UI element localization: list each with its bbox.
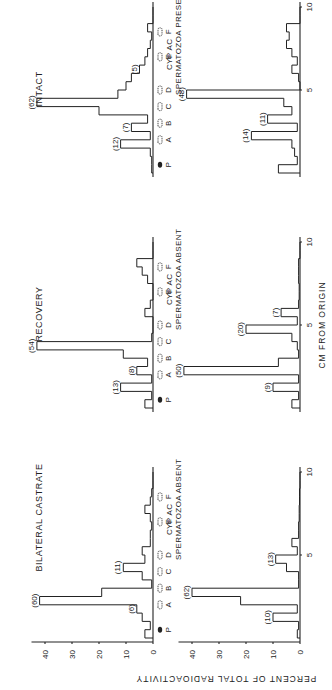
histograms-layer: (6)(60)(11)PABCDEF(10)(62)(13)510(13)(8)… — [27, 2, 314, 642]
figure-canvas: 010203040010203040 (6)(60)(11)PABCDEF(10… — [0, 0, 332, 690]
standard-spot-icon — [158, 338, 162, 346]
y-tick-label: 10 — [122, 649, 131, 658]
standard-spot-icon — [158, 86, 162, 94]
peak-label: (13) — [111, 380, 120, 395]
y-tick-label: 10 — [269, 649, 278, 658]
spot-label: P — [164, 162, 173, 167]
standard-spot-icon — [158, 119, 162, 127]
y-tick-label: 20 — [242, 649, 251, 658]
standard-spot-icon — [158, 53, 162, 61]
panel-note-line2: SPERMATOZOA ABSENT — [174, 229, 183, 330]
panel-note-line1: CYP AC — [165, 38, 174, 70]
standard-spot-icon — [158, 136, 162, 144]
x-tick-label: 5 — [305, 322, 314, 327]
spot-label: A — [164, 371, 173, 377]
x-tick-label: 10 — [305, 2, 314, 11]
spot-label: C — [164, 568, 173, 574]
castrate-top-histogram: (6)(60)(11)PABCDEF — [30, 467, 173, 642]
peak-label: (50) — [174, 363, 183, 378]
y-tick-label: 0 — [149, 649, 158, 654]
peak-label: (11) — [113, 560, 122, 574]
axes-layer: 010203040010203040 — [32, 642, 306, 659]
spot-label: P — [164, 627, 173, 632]
standard-spot-icon — [158, 28, 162, 36]
y-tick-label: 30 — [68, 649, 77, 658]
intact-bottom-histogram: (14)(11)(48)510 — [177, 2, 314, 177]
histogram-steps — [37, 242, 153, 408]
recovery-top-histogram: (13)(8)(54)PABCDEF — [27, 237, 173, 412]
peak-label: (13) — [266, 552, 275, 567]
origin-spot-icon — [158, 397, 162, 403]
x-tick-label: 10 — [305, 467, 314, 476]
peak-label: (14) — [241, 128, 250, 143]
panel-note-line2: SPERMATOZOA PRESENT — [174, 0, 183, 95]
spot-label: F — [164, 29, 173, 34]
panel-title: RECOVERY — [34, 286, 44, 341]
spot-label: P — [164, 397, 173, 402]
panel-note-line2: SPERMATOZOA ABSENT — [174, 459, 183, 560]
standard-spot-icon — [158, 354, 162, 362]
spot-label: F — [164, 264, 173, 269]
castrate-bottom-histogram: (10)(62)(13)510 — [182, 467, 314, 642]
spot-label: D — [164, 87, 173, 93]
standard-spot-icon — [158, 551, 162, 559]
y-tick-label: 40 — [41, 649, 50, 658]
standard-spot-icon — [158, 518, 162, 526]
intact-top-histogram: (12)(7)(62)(5)PABCDEF — [27, 2, 173, 177]
standard-spot-icon — [158, 568, 162, 576]
standard-spot-icon — [158, 584, 162, 592]
panel-note-line1: CYP AC — [165, 503, 174, 535]
origin-spot-icon — [158, 162, 162, 168]
x-tick-label: 10 — [305, 237, 314, 246]
y-tick-label: 40 — [188, 649, 197, 658]
histogram-steps — [40, 472, 153, 638]
peak-label: (12) — [111, 137, 120, 152]
spot-label: D — [164, 322, 173, 328]
panel-title: BILATERAL CASTRATE — [34, 463, 44, 571]
peak-label: (10) — [263, 610, 272, 625]
peak-label: (7) — [271, 307, 280, 317]
peak-label: (7) — [121, 122, 130, 132]
x-tick-label: 5 — [305, 552, 314, 557]
x-tick-label: 5 — [305, 87, 314, 92]
panel-note-line1: CYP AC — [165, 273, 174, 305]
standard-spot-icon — [158, 601, 162, 609]
peak-label: (5) — [130, 64, 139, 74]
spot-label: B — [164, 356, 173, 361]
histogram-steps — [37, 7, 153, 173]
standard-spot-icon — [158, 288, 162, 296]
peak-label: (8) — [127, 365, 136, 375]
standard-spot-icon — [158, 103, 162, 111]
origin-spot-icon — [158, 627, 162, 633]
x-axis-title: CM FROM ORIGIN — [317, 281, 327, 368]
y-axis-title: PERCENT OF TOTAL RADIOACTIVITY — [136, 674, 317, 684]
standard-spot-icon — [158, 493, 162, 501]
panel-title: INTACT — [34, 71, 44, 106]
y-tick-label: 20 — [95, 649, 104, 658]
spot-label: A — [164, 136, 173, 142]
histogram-steps — [187, 7, 300, 173]
peak-label: (11) — [258, 112, 267, 126]
histogram-steps — [192, 472, 300, 638]
peak-label: (62) — [182, 585, 191, 600]
spot-label: B — [164, 121, 173, 126]
recovery-bottom-histogram: (9)(50)(20)(7)510 — [174, 237, 314, 412]
standard-spot-icon — [158, 263, 162, 271]
standard-spot-icon — [158, 321, 162, 329]
peak-label: (60) — [30, 593, 39, 608]
chromatogram-figure: 010203040010203040 (6)(60)(11)PABCDEF(10… — [0, 0, 332, 690]
spot-label: C — [164, 338, 173, 344]
y-tick-label: 30 — [215, 649, 224, 658]
spot-label: C — [164, 103, 173, 109]
spot-label: D — [164, 552, 173, 558]
y-tick-label: 0 — [296, 649, 305, 654]
peak-label: (6) — [127, 604, 136, 614]
spot-label: B — [164, 586, 173, 591]
spot-label: A — [164, 601, 173, 607]
spot-label: F — [164, 494, 173, 499]
peak-label: (20) — [236, 322, 245, 337]
peak-label: (9) — [263, 382, 272, 392]
standard-spot-icon — [158, 371, 162, 379]
